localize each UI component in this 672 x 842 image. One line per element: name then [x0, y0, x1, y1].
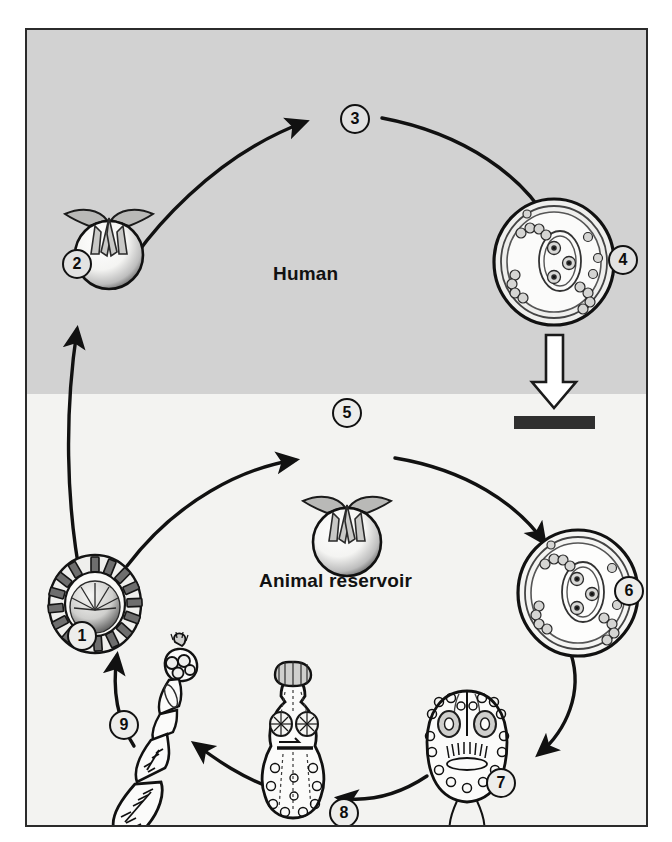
stage-marker-2[interactable]: 2	[62, 249, 92, 279]
arrow-5-to-6	[395, 458, 544, 542]
stage-marker-4[interactable]: 4	[608, 245, 638, 275]
arrow-1-to-5	[127, 460, 295, 566]
cycle-arrows	[69, 118, 575, 799]
down-arrow-icon	[532, 335, 576, 408]
life-cycle-artwork	[27, 30, 646, 825]
stage-5-oncosphere	[303, 497, 391, 576]
stage-marker-6[interactable]: 6	[614, 576, 644, 606]
zone-label-human: Human	[273, 263, 338, 285]
stage-4-hydatid-cyst	[494, 199, 614, 325]
stage-marker-5[interactable]: 5	[332, 398, 362, 428]
stage-marker-9[interactable]: 9	[109, 710, 139, 740]
arrow-6-to-7	[539, 654, 575, 754]
dead-end-arrow-group	[514, 335, 595, 429]
arrow-3-to-4	[382, 118, 547, 220]
stage-marker-3[interactable]: 3	[340, 104, 370, 134]
dead-end-bar	[514, 416, 595, 429]
arrow-7-to-8	[339, 776, 427, 799]
arrow-1-to-2	[69, 330, 82, 586]
stage-marker-8[interactable]: 8	[329, 798, 359, 827]
stage-7-protoscolex	[426, 691, 509, 825]
figure-canvas: Human Animal reservoir 2 3 4 1 5 6 7 8 9	[0, 0, 672, 842]
stage-marker-1[interactable]: 1	[67, 621, 97, 651]
stage-8-developing-worm	[262, 661, 324, 818]
zone-label-animal: Animal reservoir	[259, 570, 412, 592]
stage-marker-7[interactable]: 7	[486, 768, 516, 798]
diagram-frame: Human Animal reservoir 2 3 4 1 5 6 7 8 9	[25, 28, 648, 827]
